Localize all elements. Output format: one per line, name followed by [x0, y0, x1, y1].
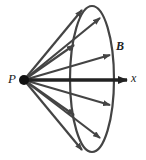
field-vector-arrow [24, 80, 110, 105]
field-vector-arrow [24, 80, 100, 138]
point-p-label: P [8, 71, 16, 87]
magnetic-field-cone-diagram [0, 0, 146, 160]
magnetic-field-label: B [116, 39, 124, 54]
point-p-dot [19, 75, 29, 85]
x-axis-label: x [131, 71, 136, 86]
field-vector-arrow [24, 55, 110, 80]
